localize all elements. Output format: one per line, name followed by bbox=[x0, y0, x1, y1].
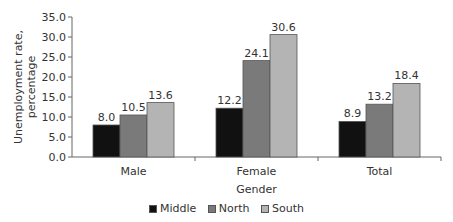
y-tick-label: 0.0 bbox=[49, 151, 67, 164]
bar-south-male bbox=[147, 103, 174, 157]
bar-value-label: 8.0 bbox=[98, 111, 116, 124]
x-axis-title: Gender bbox=[236, 183, 277, 196]
bar-value-label: 12.2 bbox=[217, 94, 242, 107]
bar-value-label: 24.1 bbox=[244, 47, 269, 60]
bar-south-total bbox=[393, 83, 420, 157]
y-tick-label: 20.0 bbox=[42, 71, 67, 84]
legend-label-north: North bbox=[219, 202, 250, 215]
y-tick-label: 15.0 bbox=[42, 91, 67, 104]
bar-chart: 0.05.010.015.020.025.030.035.08.010.513.… bbox=[0, 0, 453, 222]
x-category-label: Female bbox=[237, 165, 277, 178]
chart-canvas: 0.05.010.015.020.025.030.035.08.010.513.… bbox=[0, 0, 453, 222]
legend-swatch-north bbox=[208, 205, 216, 213]
bar-middle-female bbox=[216, 108, 243, 157]
bar-south-female bbox=[270, 35, 297, 157]
y-tick-label: 25.0 bbox=[42, 51, 67, 64]
bar-value-label: 13.2 bbox=[367, 90, 392, 103]
legend-item-north: North bbox=[208, 202, 250, 215]
y-axis-title: Unemployment rate,percentage bbox=[12, 30, 38, 144]
bar-value-label: 30.6 bbox=[271, 21, 296, 34]
y-tick-label: 35.0 bbox=[42, 11, 67, 24]
bar-middle-total bbox=[339, 121, 366, 157]
legend-label-south: South bbox=[272, 202, 304, 215]
bar-north-male bbox=[120, 115, 147, 157]
legend-swatch-middle bbox=[149, 205, 157, 213]
x-category-label: Male bbox=[120, 165, 146, 178]
bar-value-label: 13.6 bbox=[148, 89, 173, 102]
legend-item-middle: Middle bbox=[149, 202, 196, 215]
y-tick-label: 10.0 bbox=[42, 111, 67, 124]
x-category-label: Total bbox=[366, 165, 393, 178]
legend-swatch-south bbox=[261, 205, 269, 213]
y-tick-label: 30.0 bbox=[42, 31, 67, 44]
bar-value-label: 10.5 bbox=[121, 101, 146, 114]
legend-item-south: South bbox=[261, 202, 304, 215]
legend-label-middle: Middle bbox=[160, 202, 196, 215]
bar-value-label: 8.9 bbox=[344, 107, 362, 120]
bar-north-female bbox=[243, 61, 270, 157]
bar-north-total bbox=[366, 104, 393, 157]
y-tick-label: 5.0 bbox=[49, 131, 67, 144]
bar-value-label: 18.4 bbox=[394, 69, 419, 82]
legend: Middle North South bbox=[0, 202, 453, 216]
bar-middle-male bbox=[93, 125, 120, 157]
